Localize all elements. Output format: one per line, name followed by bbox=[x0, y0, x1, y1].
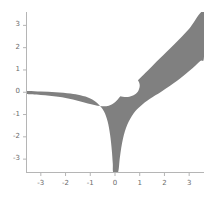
x-axis-ticks bbox=[41, 173, 189, 177]
y-tick-label: 3 bbox=[2, 20, 20, 28]
y-axis-ticks bbox=[23, 25, 27, 159]
y-tick-label: -3 bbox=[2, 154, 20, 162]
y-tick-label: -1 bbox=[2, 110, 20, 118]
y-tick-label: -2 bbox=[2, 132, 20, 140]
x-tick-label: 3 bbox=[179, 179, 199, 187]
x-tick-label: 1 bbox=[130, 179, 150, 187]
x-tick-label: 0 bbox=[105, 179, 125, 187]
x-tick-label: 2 bbox=[154, 179, 174, 187]
y-tick-label: 1 bbox=[2, 65, 20, 73]
x-tick-label: -3 bbox=[31, 179, 51, 187]
y-tick-label: 2 bbox=[2, 43, 20, 51]
x-tick-label: -2 bbox=[56, 179, 76, 187]
chart-figure: -3-2-10123 -3-2-10123 bbox=[0, 0, 204, 210]
x-tick-label: -1 bbox=[80, 179, 100, 187]
y-tick-label: 0 bbox=[2, 87, 20, 95]
